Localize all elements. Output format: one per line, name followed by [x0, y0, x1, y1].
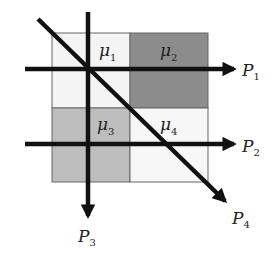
label-p3: P3	[77, 226, 96, 248]
label-p4: P4	[231, 208, 250, 230]
label-p2: P2	[241, 136, 260, 158]
partition-diagram: μ1 μ2 μ3 μ4 P1 P2 P3 P4	[0, 0, 278, 265]
label-p1: P1	[241, 60, 260, 82]
